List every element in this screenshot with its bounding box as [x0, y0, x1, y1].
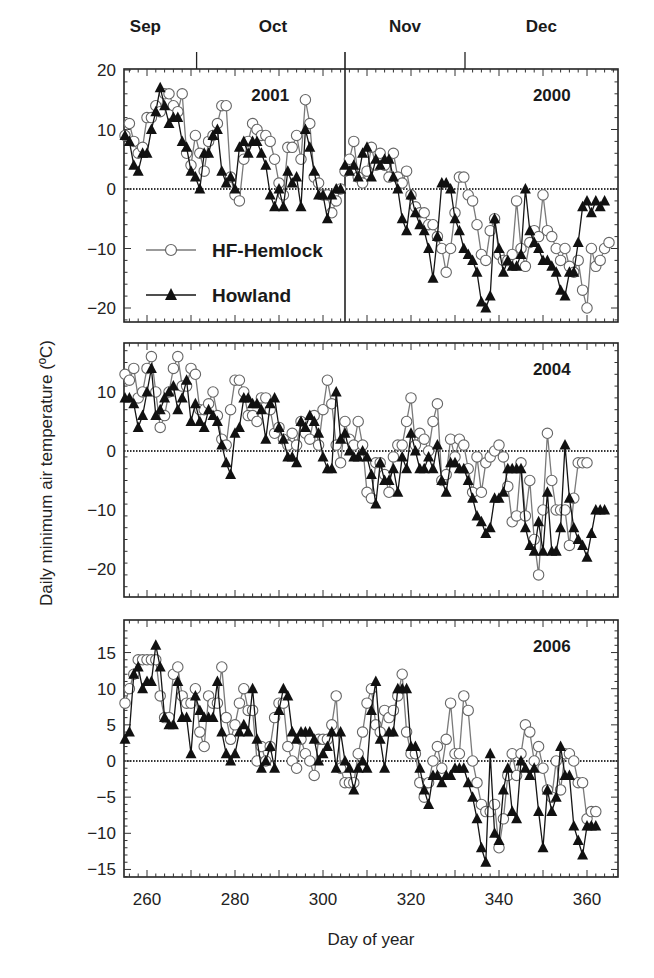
hemlock-point: [538, 763, 548, 773]
y-axis-title: Daily minimum air temperature (ºC): [37, 340, 56, 606]
hemlock-point: [322, 375, 332, 385]
hemlock-point: [441, 267, 451, 277]
y-tick-label: −10: [87, 240, 116, 259]
hemlock-point: [252, 416, 262, 426]
hemlock-point: [199, 741, 209, 751]
y-tick-label: 15: [97, 644, 116, 663]
hemlock-point: [454, 749, 464, 759]
y-tick-label: −20: [87, 560, 116, 579]
hemlock-point: [577, 777, 587, 787]
panel-2001-2000: 20100−10−2020012000HF-HemlockHowland: [87, 0, 618, 322]
hemlock-point: [190, 130, 200, 140]
hemlock-point: [586, 243, 596, 253]
y-tick-label: 0: [107, 180, 116, 199]
hemlock-point: [595, 255, 605, 265]
hemlock-point: [533, 570, 543, 580]
hemlock-point: [542, 428, 552, 438]
hemlock-point: [335, 458, 345, 468]
hemlock-point: [388, 452, 398, 462]
hemlock-point: [467, 756, 477, 766]
hemlock-point: [269, 154, 279, 164]
hemlock-point: [463, 705, 473, 715]
month-label: Oct: [259, 17, 288, 36]
hemlock-point: [190, 369, 200, 379]
hemlock-point: [305, 756, 315, 766]
y-tick-label: −10: [87, 824, 116, 843]
hemlock-point: [234, 196, 244, 206]
hemlock-point: [124, 375, 134, 385]
hemlock-point: [208, 387, 218, 397]
y-tick-label: 0: [107, 442, 116, 461]
hemlock-point: [234, 698, 244, 708]
hemlock-point: [538, 190, 548, 200]
y-tick-label: 20: [97, 61, 116, 80]
y-tick-label: 10: [97, 121, 116, 140]
x-axis-title: Day of year: [328, 930, 415, 949]
hemlock-point: [353, 416, 363, 426]
hemlock-point: [547, 475, 557, 485]
hemlock-point: [494, 440, 504, 450]
hemlock-point: [476, 487, 486, 497]
hemlock-point: [498, 814, 508, 824]
hemlock-point: [349, 136, 359, 146]
hemlock-point: [195, 727, 205, 737]
hemlock-point: [287, 142, 297, 152]
hemlock-point: [296, 154, 306, 164]
hemlock-point: [155, 691, 165, 701]
hemlock-point: [120, 698, 130, 708]
hemlock-point: [124, 118, 134, 128]
y-tick-label: 10: [97, 680, 116, 699]
legend-label: Howland: [212, 285, 291, 306]
hemlock-point: [595, 0, 605, 5]
hemlock-point: [291, 440, 301, 450]
year-label: 2000: [533, 86, 571, 105]
hemlock-point: [481, 255, 491, 265]
hemlock-point: [445, 698, 455, 708]
hemlock-point: [547, 231, 557, 241]
hemlock-point: [234, 375, 244, 385]
hemlock-point: [129, 363, 139, 373]
hemlock-point: [599, 0, 609, 5]
hemlock-point: [604, 0, 614, 5]
hemlock-point: [604, 0, 614, 5]
hemlock-point: [151, 387, 161, 397]
hemlock-point: [459, 172, 469, 182]
hemlock-point: [608, 0, 618, 5]
hemlock-point: [599, 0, 609, 5]
x-tick-label: 280: [221, 890, 249, 909]
x-tick-label: 360: [573, 890, 601, 909]
hemlock-point: [582, 303, 592, 313]
hemlock-point: [604, 237, 614, 247]
hemlock-point: [221, 712, 231, 722]
hemlock-point: [525, 727, 535, 737]
hemlock-point: [608, 0, 618, 5]
hemlock-point: [247, 705, 257, 715]
hemlock-point: [511, 196, 521, 206]
y-tick-label: 5: [107, 716, 116, 735]
hemlock-point: [467, 196, 477, 206]
y-tick-label: −15: [87, 860, 116, 879]
hemlock-point: [432, 399, 442, 409]
hemlock-point: [357, 727, 367, 737]
hemlock-point: [591, 0, 601, 5]
hemlock-point: [401, 166, 411, 176]
hemlock-point: [287, 428, 297, 438]
month-label: Dec: [526, 17, 557, 36]
hemlock-point: [313, 178, 323, 188]
hemlock-point: [472, 777, 482, 787]
hemlock-point: [560, 243, 570, 253]
hemlock-point: [177, 89, 187, 99]
hemlock-point: [577, 285, 587, 295]
hemlock-point: [419, 434, 429, 444]
hemlock-point: [406, 393, 416, 403]
hemlock-point: [340, 416, 350, 426]
x-tick-label: 300: [309, 890, 337, 909]
hemlock-point: [533, 741, 543, 751]
hemlock-point: [173, 351, 183, 361]
hemlock-point: [265, 136, 275, 146]
hemlock-point: [164, 89, 174, 99]
hemlock-point: [331, 691, 341, 701]
hemlock-point: [432, 741, 442, 751]
hemlock-point: [498, 452, 508, 462]
x-tick-label: 340: [485, 890, 513, 909]
